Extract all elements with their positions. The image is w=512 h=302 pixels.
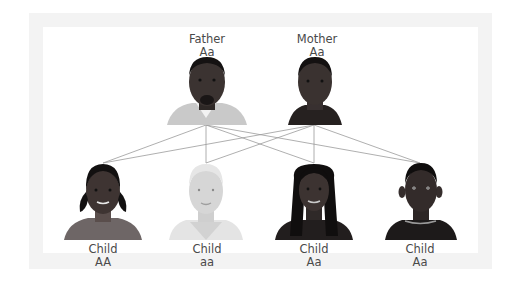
child-4-portrait <box>385 163 457 240</box>
father-portrait <box>167 57 247 125</box>
child-1-genotype: AA <box>63 256 143 269</box>
child-3-genotype: Aa <box>274 256 354 269</box>
line-father-child-1 <box>103 125 206 163</box>
child-3-portrait <box>275 164 353 240</box>
father-genotype: Aa <box>167 46 247 59</box>
mother-label: Mother Aa <box>277 33 357 59</box>
line-father-child-4 <box>206 125 420 163</box>
mother-genotype: Aa <box>277 46 357 59</box>
child-4-label: Child Aa <box>380 243 460 269</box>
child-1-portrait <box>64 164 142 240</box>
line-mother-child-1 <box>103 125 314 163</box>
mother-portrait <box>288 57 342 125</box>
child-2-genotype: aa <box>167 256 247 269</box>
child-2-portrait <box>169 164 243 240</box>
child-3-label: Child Aa <box>274 243 354 269</box>
inheritance-lines <box>103 125 420 163</box>
child-4-genotype: Aa <box>380 256 460 269</box>
child-1-label: Child AA <box>63 243 143 269</box>
father-label: Father Aa <box>167 33 247 59</box>
line-mother-child-4 <box>314 125 420 163</box>
child-2-label: Child aa <box>167 243 247 269</box>
